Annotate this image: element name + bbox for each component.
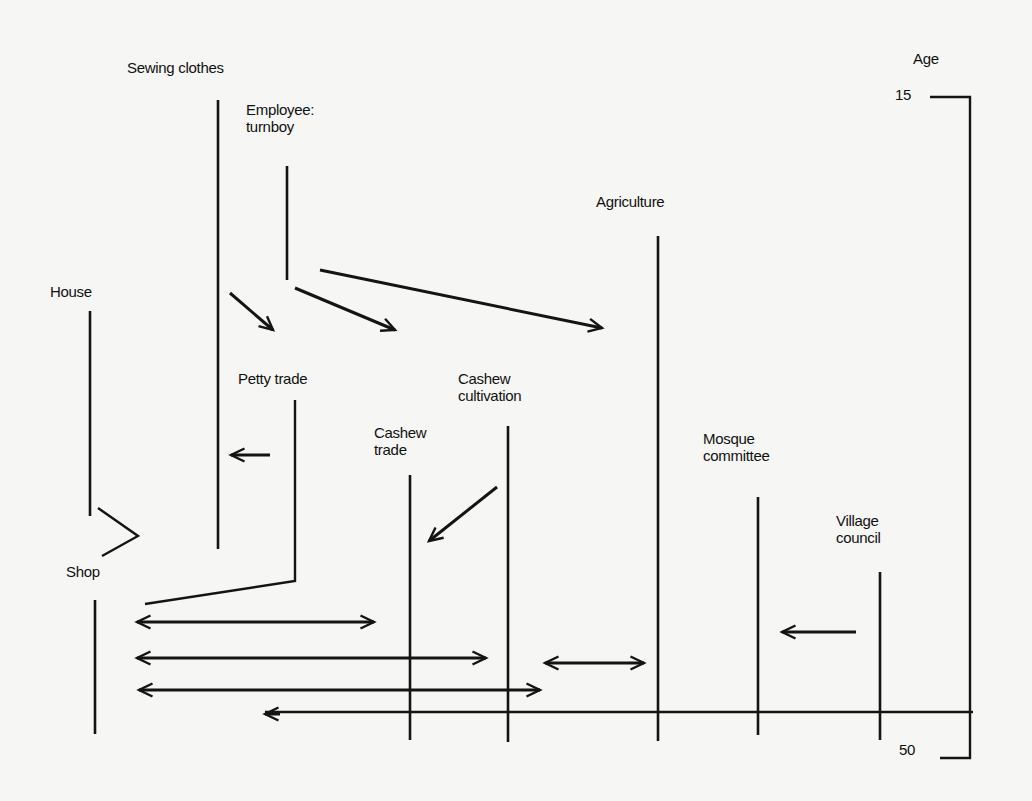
label-cashew-trade: Cashew trade xyxy=(374,424,426,458)
arrow-turnboy-to-agriculture xyxy=(320,270,602,332)
arrow-shop-baseline xyxy=(265,707,280,720)
arrow-petty-trade-to-sewing xyxy=(231,448,270,461)
label-mosque-committee: Mosque committee xyxy=(703,430,770,464)
label-age-50: 50 xyxy=(899,741,915,758)
arrow-shop-cashew-trade xyxy=(137,615,374,628)
petty-trade-to-shop-path xyxy=(145,400,295,604)
house-to-shop-bend-path xyxy=(98,508,138,556)
label-employee-turnboy: Employee: turnboy xyxy=(246,101,314,135)
label-agriculture: Agriculture xyxy=(596,193,664,210)
age-bracket-path xyxy=(930,97,970,758)
label-age-title: Age xyxy=(913,50,939,67)
label-age-15: 15 xyxy=(895,86,911,103)
arrow-cultivation-to-cashew-trade xyxy=(429,487,497,541)
arrow-turnboy-to-cashew-trade xyxy=(295,288,395,331)
transition-arrows xyxy=(137,270,856,721)
label-cashew-cultivation: Cashew cultivation xyxy=(458,370,521,404)
label-sewing-clothes: Sewing clothes xyxy=(127,59,224,76)
arrow-cultivation-agriculture xyxy=(545,656,644,669)
timeline-bars xyxy=(90,100,880,742)
label-village-council: Village council xyxy=(836,512,881,546)
arrow-shop-cashew-cultivation xyxy=(137,651,486,664)
label-house: House xyxy=(50,283,92,300)
label-petty-trade: Petty trade xyxy=(238,370,307,387)
arrow-sewing-to-petty-trade xyxy=(230,293,273,330)
arrow-village-council-to-mosque xyxy=(782,625,856,638)
label-shop: Shop xyxy=(66,563,100,580)
arrow-shop-agriculture xyxy=(139,683,540,696)
